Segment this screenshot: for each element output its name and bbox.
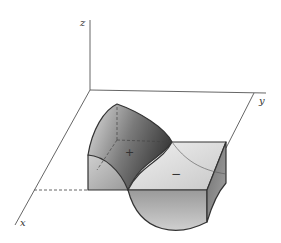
z-axis-label: z <box>80 18 85 28</box>
y-axis-label: y <box>259 96 265 106</box>
base-right-edge <box>226 93 254 148</box>
x-axis <box>15 90 90 225</box>
wave-surface-diagram: + − <box>0 0 281 243</box>
front-trough-face <box>128 190 207 230</box>
x-axis-label: x <box>20 218 26 228</box>
negative-region-label: − <box>171 167 181 181</box>
positive-region-label: + <box>125 146 134 159</box>
y-axis <box>90 90 266 93</box>
wave-solid <box>88 104 226 230</box>
